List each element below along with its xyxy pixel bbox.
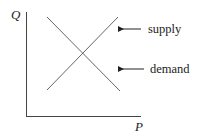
supply-demand-diagram: Q P supply demand bbox=[0, 0, 202, 137]
y-axis-label: Q bbox=[11, 7, 21, 22]
supply-label: supply bbox=[148, 22, 182, 36]
demand-curve bbox=[47, 17, 120, 91]
demand-label: demand bbox=[150, 62, 190, 76]
x-axis-label: P bbox=[134, 119, 143, 134]
